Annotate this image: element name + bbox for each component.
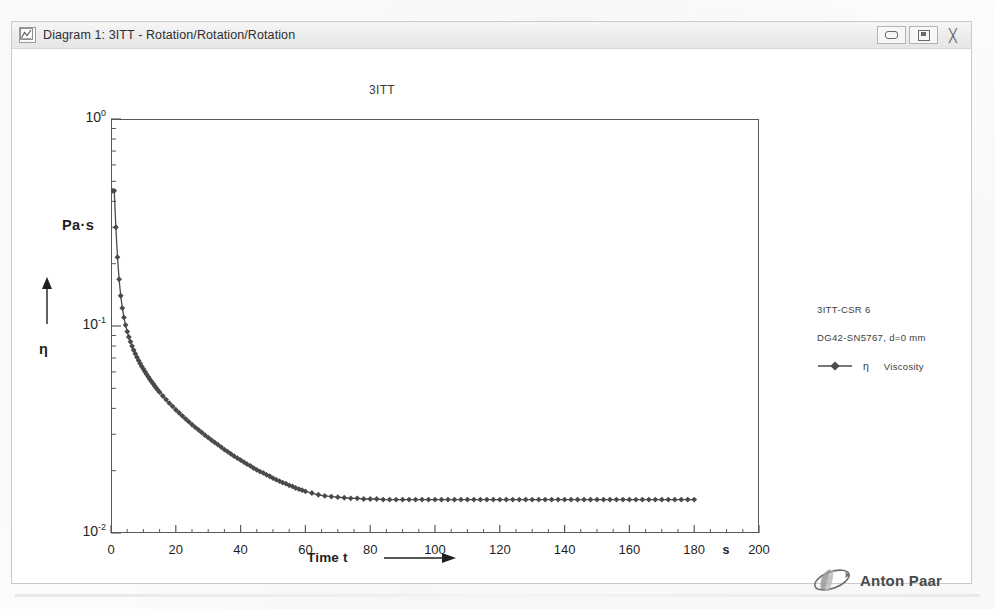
window-titlebar: Diagram 1: 3ITT - Rotation/Rotation/Rota… (12, 22, 971, 49)
diagram-icon (19, 27, 36, 43)
scan-artifact (15, 594, 980, 597)
series-marker (406, 497, 412, 503)
series-marker (309, 490, 315, 496)
series-marker (685, 497, 691, 503)
diagram-window: Diagram 1: 3ITT - Rotation/Rotation/Rota… (11, 21, 972, 584)
data-series-viscosity (111, 119, 759, 533)
series-marker (639, 497, 645, 503)
series-marker (529, 497, 535, 503)
series-marker (588, 497, 594, 503)
legend-series-viscosity: η Viscosity (817, 360, 967, 372)
y-axis-label: η (39, 341, 48, 357)
series-marker (341, 495, 347, 501)
series-marker (633, 497, 639, 503)
anton-paar-mark-icon (812, 563, 854, 597)
series-marker (426, 497, 432, 503)
minimize-button[interactable] (877, 26, 906, 44)
x-tick-label: 20 (156, 542, 196, 557)
close-button[interactable]: ╳ (941, 26, 965, 44)
series-marker (400, 497, 406, 503)
series-marker (484, 497, 490, 503)
series-marker (691, 497, 697, 503)
series-marker (503, 497, 509, 503)
diagram-canvas: 3ITT Pa·s η Time t s 3ITT-CS (12, 49, 971, 583)
legend-marker-icon (817, 361, 853, 371)
series-marker (594, 497, 600, 503)
series-marker (445, 497, 451, 503)
x-tick-label: 200 (739, 542, 779, 557)
series-marker (121, 315, 127, 321)
legend-series-symbol: η (863, 360, 869, 372)
series-marker (555, 497, 561, 503)
series-marker (549, 497, 555, 503)
x-tick-label: 160 (609, 542, 649, 557)
window-controls: ╳ (877, 26, 965, 44)
series-marker (124, 329, 130, 335)
series-marker (348, 495, 354, 501)
series-marker (665, 497, 671, 503)
maximize-icon (918, 30, 930, 41)
x-tick-label: 180 (674, 542, 714, 557)
series-marker (361, 496, 367, 502)
series-marker (477, 497, 483, 503)
x-tick-label: 140 (545, 542, 585, 557)
series-marker (620, 497, 626, 503)
series-marker (374, 496, 380, 502)
x-tick-label: 60 (285, 542, 325, 557)
series-marker (678, 497, 684, 503)
x-tick-label: 0 (91, 542, 131, 557)
series-marker (322, 493, 328, 499)
x-tick-label: 40 (221, 542, 261, 557)
legend-series-name: Viscosity (884, 361, 924, 372)
series-marker (452, 497, 458, 503)
series-marker (118, 293, 124, 299)
series-marker (542, 497, 548, 503)
series-marker (335, 494, 341, 500)
series-marker (413, 497, 419, 503)
series-marker (516, 497, 522, 503)
minimize-icon (885, 31, 898, 39)
series-marker (328, 494, 334, 500)
series-marker (627, 497, 633, 503)
series-marker (123, 322, 129, 328)
series-marker (380, 497, 386, 503)
series-marker (652, 497, 658, 503)
maximize-button[interactable] (909, 26, 938, 44)
anton-paar-logo: Anton Paar (812, 563, 942, 597)
scanned-page: Diagram 1: 3ITT - Rotation/Rotation/Rota… (0, 0, 995, 609)
series-line (113, 191, 695, 500)
series-marker (490, 497, 496, 503)
series-marker (607, 497, 613, 503)
series-marker (119, 305, 125, 311)
series-marker (471, 497, 477, 503)
series-marker (614, 497, 620, 503)
y-tick-label: 10-1 (66, 315, 106, 332)
window-title: Diagram 1: 3ITT - Rotation/Rotation/Rota… (43, 28, 295, 42)
y-axis-unit: Pa·s (62, 217, 94, 233)
series-marker (523, 497, 529, 503)
series-marker (126, 334, 132, 340)
series-marker (116, 276, 122, 282)
series-marker (672, 497, 678, 503)
series-marker (439, 497, 445, 503)
x-tick-label: 120 (480, 542, 520, 557)
series-marker (354, 495, 360, 501)
series-marker (367, 496, 373, 502)
series-marker (458, 497, 464, 503)
series-marker (562, 497, 568, 503)
series-marker (568, 497, 574, 503)
legend-line-1: 3ITT-CSR 6 (817, 304, 967, 315)
chart-legend: 3ITT-CSR 6 DG42-SN5767, d=0 mm η Viscosi… (817, 304, 967, 372)
series-marker (315, 492, 321, 498)
series-marker (113, 224, 119, 230)
series-marker (465, 497, 471, 503)
anton-paar-wordmark: Anton Paar (860, 572, 942, 589)
series-marker (646, 497, 652, 503)
y-axis-arrow-icon (40, 277, 54, 325)
series-marker (575, 497, 581, 503)
series-marker (510, 497, 516, 503)
series-marker (536, 497, 542, 503)
series-marker (497, 497, 503, 503)
y-tick-label: 10-2 (66, 522, 106, 539)
x-tick-label: 100 (415, 542, 455, 557)
